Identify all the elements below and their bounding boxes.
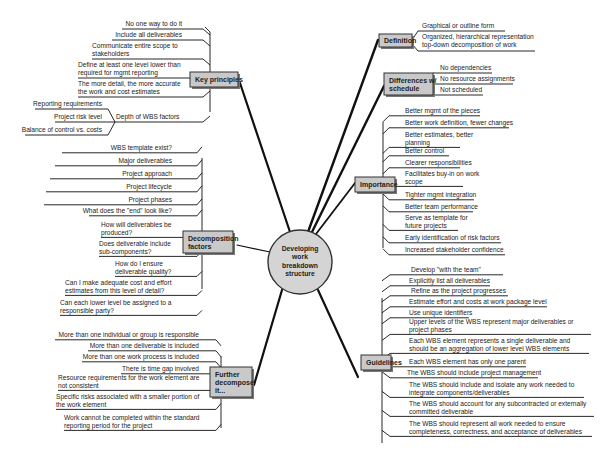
topic-label: Definition <box>384 37 416 44</box>
leaf-key-principles-0: No one way to do it <box>126 20 183 28</box>
leaf-key-principles-5: Depth of WBS factors <box>116 113 180 121</box>
topic-key-principles[interactable]: Key principles <box>190 72 243 89</box>
central-topic-label: Developingworkbreakdownstructure <box>282 245 319 277</box>
leaf-definition-1: Organized, hierarchical representationto… <box>422 33 534 49</box>
topic-label: Guidelines <box>366 359 402 366</box>
leaf-decomposition-6: How will deliverables beproduced? <box>101 221 172 237</box>
topic-label: Key principles <box>195 76 243 84</box>
leaf-guidelines-2: Refine as the project progresses <box>411 287 507 295</box>
leaf-importance-6: Tighter mgmt integration <box>405 191 477 199</box>
leaf-importance-5: Facilitates buy-in on workscope <box>405 170 480 186</box>
leaf-key-principles-1: Include all deliverables <box>115 31 182 38</box>
leaf-importance-7: Better team performance <box>405 203 478 211</box>
topic-definition[interactable]: Definition <box>379 34 416 49</box>
leaf-guidelines-4: Use unique identifiers <box>409 309 473 317</box>
leaf-differences-0: No dependencies <box>440 64 492 72</box>
leaf-depth-factor-0: Reporting requirements <box>33 100 103 108</box>
leaf-further-6: Work cannot be completed within the stan… <box>64 414 200 430</box>
topic-differences[interactable]: Differences w/schedule <box>384 73 437 97</box>
leaf-decomposition-8: How do I ensuredeliverable quality? <box>115 260 172 276</box>
leaf-guidelines-6: Each WBS element represents a single del… <box>409 337 571 353</box>
leaf-decomposition-4: Project phases <box>128 196 172 204</box>
leaf-differences-2: Not scheduled <box>440 86 482 93</box>
leaf-guidelines-3: Estimate effort and costs at work packag… <box>409 298 547 306</box>
leaf-guidelines-8: The WBS should include project managemen… <box>407 369 541 377</box>
leaf-further-5: Specific risks associated with a smaller… <box>56 393 199 408</box>
leaf-further-3: There is time gap involved <box>122 365 199 373</box>
leaf-importance-4: Clearer responsibilities <box>405 159 472 167</box>
leaf-importance-0: Better mgmt of the pieces <box>405 107 481 115</box>
leaf-decomposition-1: Major deliverables <box>118 157 172 165</box>
leaf-guidelines-10: The WBS should account for any subcontra… <box>409 400 587 415</box>
leaf-depth-factor-2: Balance of control vs. costs <box>22 126 103 133</box>
topic-importance[interactable]: Importance <box>355 177 398 194</box>
leaf-guidelines-9: The WBS should include and isolate any w… <box>409 381 575 397</box>
leaf-further-1: More than one deliverable is included <box>90 342 200 349</box>
topic-label: Importance <box>360 181 398 189</box>
leaf-guidelines-7: Each WBS element has only one parent <box>409 358 526 366</box>
leaf-guidelines-5: Upper levels of the WBS represent major … <box>409 318 574 334</box>
leaf-further-4: Resource requirements for the work eleme… <box>58 374 200 389</box>
leaf-key-principles-2: Communicate entire scope tostakeholders <box>92 42 178 57</box>
leaf-guidelines-1: Explicitly list all deliverables <box>409 277 491 285</box>
leaf-importance-8: Serve as template forfuture projects <box>405 214 468 230</box>
leaf-further-2: More than one work process is included <box>83 353 200 361</box>
leaf-guidelines-11: The WBS should represent all work needed… <box>409 420 583 436</box>
leaf-further-0: More than one individual or group is res… <box>59 331 200 339</box>
leaf-definition-0: Graphical or outline form <box>422 22 495 30</box>
topic-further[interactable]: Furtherdecomposeit... <box>210 367 254 399</box>
mind-map-canvas: DevelopingworkbreakdownstructureKey prin… <box>0 0 608 461</box>
leaf-importance-1: Better work definition, fewer changes <box>405 119 514 127</box>
leaf-guidelines-0: Develop "with the team" <box>411 266 482 274</box>
leaf-decomposition-3: Project lifecycle <box>126 183 172 191</box>
central-topic[interactable]: Developingworkbreakdownstructure <box>268 230 332 294</box>
mind-map-nodes: DevelopingworkbreakdownstructureKey prin… <box>22 20 587 436</box>
leaf-depth-factor-1: Project risk level <box>54 113 103 121</box>
leaf-importance-10: Increased stakeholder confidence <box>405 246 504 253</box>
leaf-decomposition-5: What does the "end" look like? <box>83 207 173 214</box>
leaf-key-principles-4: The more detail, the more accuratethe wo… <box>78 80 181 95</box>
leaf-importance-3: Better control <box>405 147 445 154</box>
leaf-differences-1: No resource assignments <box>440 75 515 83</box>
topic-decomposition[interactable]: Decompositionfactors <box>183 231 239 255</box>
topic-guidelines[interactable]: Guidelines <box>361 355 402 372</box>
leaf-decomposition-2: Project approach <box>122 170 172 178</box>
leaf-decomposition-0: WBS template exist? <box>111 144 173 152</box>
leaf-key-principles-3: Define at least one level lower thanrequ… <box>78 61 181 77</box>
leaf-importance-2: Better estimates, betterplanning <box>405 131 474 147</box>
leaf-decomposition-7: Does deliverable includesub-components? <box>99 240 171 256</box>
leaf-importance-9: Early identification of risk factors <box>405 234 500 242</box>
leaf-decomposition-9: Can I make adequate cost and effortestim… <box>65 279 172 294</box>
leaf-decomposition-10: Can each lower level be assigned to ares… <box>60 299 172 315</box>
